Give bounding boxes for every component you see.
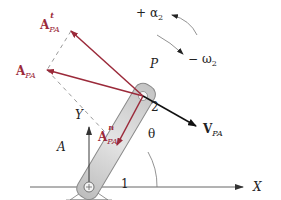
pivot-a	[84, 182, 94, 192]
label-point-p: P	[150, 58, 158, 70]
label-link-1: 1	[121, 178, 129, 190]
label-a-pa: APA	[16, 65, 36, 80]
label-x-axis: X	[253, 181, 262, 193]
label-v-pa: VPA	[203, 123, 223, 138]
label-link-2: 2	[151, 101, 159, 113]
label-point-a: A	[57, 141, 66, 153]
label-theta: θ	[148, 128, 155, 140]
construction-lines	[47, 31, 117, 145]
label-omega-2: − ω2	[188, 53, 217, 68]
alpha-arc-arrow	[172, 15, 197, 35]
label-alpha-2: + α2	[136, 7, 163, 22]
label-a-pa-n: AnPA	[98, 131, 118, 146]
label-y-axis: Y	[75, 109, 83, 121]
label-a-pa-t: AtPA	[40, 19, 60, 34]
kinematics-diagram: AtPA APA AnPA VPA P A 2 1 X Y θ + α2 − ω…	[0, 0, 281, 200]
omega-arc-arrow	[157, 35, 183, 54]
theta-arc	[148, 152, 157, 187]
